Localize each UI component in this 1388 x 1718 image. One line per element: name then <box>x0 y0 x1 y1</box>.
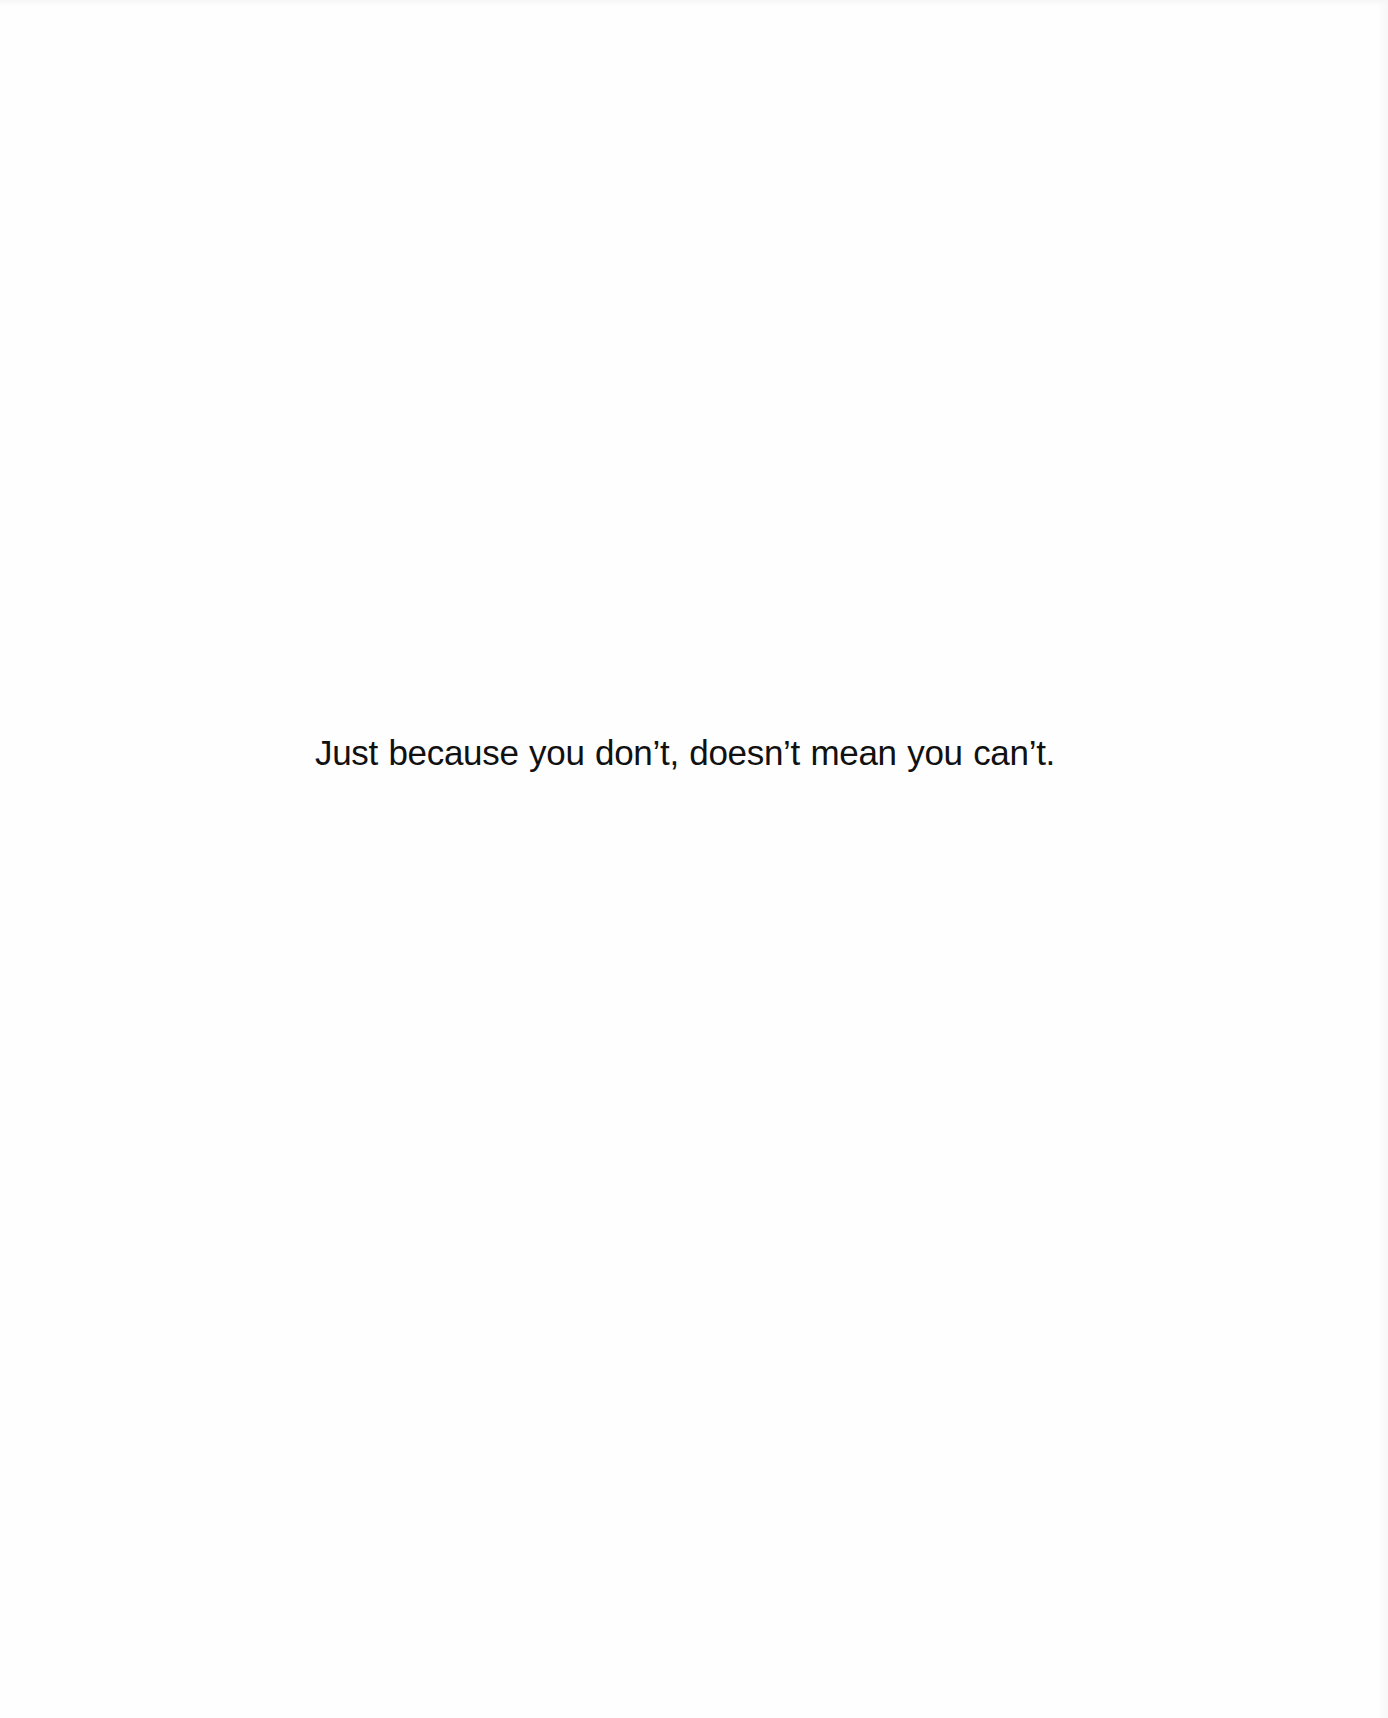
scan-edge-top <box>0 0 1388 6</box>
quote-text: Just because you don’t, doesn’t mean you… <box>315 729 1055 777</box>
document-page: Just because you don’t, doesn’t mean you… <box>0 0 1388 1718</box>
scan-edge-right <box>1378 0 1388 1718</box>
quote-line: Just because you don’t, doesn’t mean you… <box>0 729 1388 777</box>
